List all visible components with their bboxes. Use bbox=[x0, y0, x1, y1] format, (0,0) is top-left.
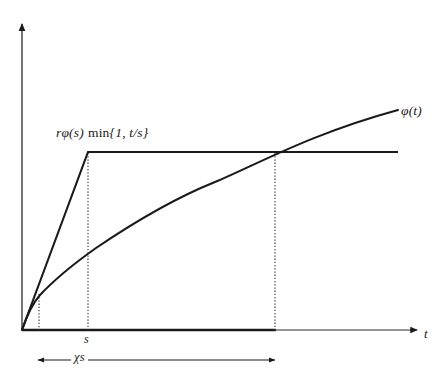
phi-curve bbox=[22, 110, 398, 330]
ramp-function-label: rφ(s)min{1, t/s} bbox=[56, 126, 148, 140]
phi-curve-label: φ(t) bbox=[401, 104, 422, 118]
ramp-label-lead: rφ(s) bbox=[56, 125, 84, 140]
ramp-label-min-args: {1, t/s} bbox=[110, 125, 149, 140]
phi-ramp-diagram: rφ(s)min{1, t/s} φ(t) s χs t bbox=[0, 0, 445, 386]
ramp-label-min-operator: min bbox=[88, 125, 110, 140]
span-measure-label: χs bbox=[71, 351, 88, 364]
ramp-plateau-curve bbox=[22, 152, 398, 330]
x-axis-label: t bbox=[424, 327, 428, 340]
x-tick-label-s: s bbox=[84, 333, 89, 345]
diagram-canvas bbox=[0, 0, 445, 386]
